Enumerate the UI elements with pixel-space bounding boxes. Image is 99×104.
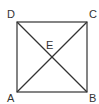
label-C: C [89, 8, 97, 20]
label-A: A [7, 92, 15, 104]
label-D: D [7, 8, 15, 20]
square-diagram: D C E A B [0, 0, 99, 104]
label-E: E [46, 39, 53, 51]
label-B: B [89, 92, 96, 104]
